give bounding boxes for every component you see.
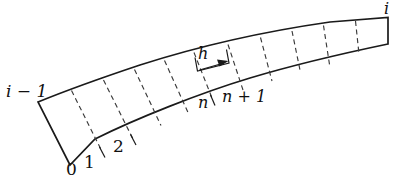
label-spacing-h: h <box>198 46 208 62</box>
figure-canvas: i − 1 i 0 1 2 n n + 1 h <box>0 0 403 190</box>
divider-dashed-3 <box>135 70 162 126</box>
divider-dashed-1 <box>72 91 103 153</box>
label-node-2: 2 <box>113 138 124 155</box>
divider-dashed-10 <box>356 21 360 54</box>
tick-mark-node-1 <box>100 147 106 158</box>
label-right-end: i <box>384 1 389 17</box>
divider-dashed-2 <box>104 80 134 140</box>
label-node-n-plus-1: n + 1 <box>222 89 266 105</box>
label-node-n: n <box>198 95 208 111</box>
band-outline-path <box>38 18 388 166</box>
label-node-1: 1 <box>84 154 95 171</box>
label-left-end: i − 1 <box>6 83 47 100</box>
divider-dashed-4 <box>165 61 189 113</box>
label-node-0: 0 <box>66 161 77 178</box>
tick-mark-node-2 <box>131 135 137 146</box>
tick-mark-node-n <box>211 95 216 106</box>
